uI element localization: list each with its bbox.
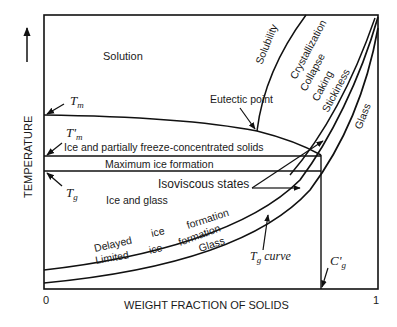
eutectic-arrow-icon — [240, 108, 255, 129]
tm-prime-arrow-icon — [47, 143, 62, 155]
svg-text:Tg: Tg — [66, 185, 78, 202]
cg-arrow-icon — [322, 268, 328, 287]
region-ice-and-glass: Ice and glass — [106, 194, 168, 206]
solubility-label: Solubility — [253, 22, 280, 66]
region-glass-upper: Glass — [352, 101, 373, 130]
tg-arrow-icon — [47, 173, 62, 186]
svg-text:Tg curve: Tg curve — [250, 249, 292, 265]
svg-text:Tm: Tm — [70, 93, 84, 110]
x-max-label: 1 — [373, 294, 379, 306]
svg-text:T'm: T'm — [66, 125, 83, 142]
svg-text:ice: ice — [150, 224, 166, 239]
tg-curve-arrow-icon — [263, 215, 268, 250]
region-partially-frozen: Ice and partially freeze-concentrated so… — [64, 141, 264, 153]
tm-arrow-icon — [47, 104, 64, 114]
svg-text:C'g: C'g — [330, 253, 346, 270]
region-solution: Solution — [103, 50, 143, 62]
svg-text:ice: ice — [148, 241, 164, 256]
eutectic-label: Eutectic point — [210, 93, 273, 105]
x-axis-label: WEIGHT FRACTION OF SOLIDS — [124, 299, 289, 311]
region-max-ice: Maximum ice formation — [105, 158, 214, 170]
x-min-label: 0 — [43, 294, 49, 306]
y-axis-label: TEMPERATURE — [22, 116, 34, 198]
isoviscous-label: Isoviscous states — [158, 177, 249, 191]
state-diagram: Solution Eutectic point Tm T'm Tg Ice an… — [0, 0, 397, 327]
